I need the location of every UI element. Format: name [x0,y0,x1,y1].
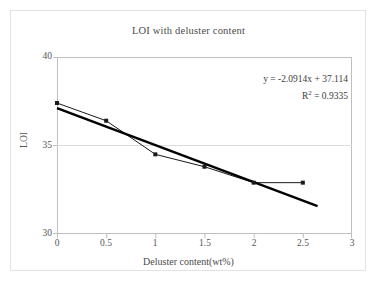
y-tick-40: 40 [22,51,52,61]
r-squared-value: R2 = 0.9335 [200,86,348,103]
r-squared-number: = 0.9335 [312,91,348,101]
x-tick-2-5: 2.5 [288,238,318,248]
x-tick-1-5: 1.5 [190,238,220,248]
x-axis-label: Deluster content(wt%) [0,256,377,267]
x-tick-1: 1 [140,238,170,248]
data-point-marker [104,119,108,123]
y-tick-30: 30 [22,228,52,238]
chart-title: LOI with deluster content [0,25,377,36]
trendline-equation: y = -2.0914x + 37.114 [200,72,348,86]
y-axis-label: LOI [19,110,29,170]
x-tick-0-5: 0.5 [91,238,121,248]
data-point-marker [203,165,207,169]
data-point-marker [153,152,157,156]
trendline-annotation: y = -2.0914x + 37.114 R2 = 0.9335 [200,72,348,103]
chart-figure: LOI with deluster content 40 35 30 LOI [0,0,377,286]
data-point-marker [55,101,59,105]
trendline [57,108,318,206]
data-series-line [57,103,303,183]
x-tick-0: 0 [42,238,72,248]
data-point-marker [301,181,305,185]
x-axis-ticks: 0 0.5 1 1.5 2 2.5 3 [0,238,377,254]
x-tick-3: 3 [337,238,367,248]
data-point-markers [55,101,305,185]
x-tick-2: 2 [239,238,269,248]
data-point-marker [252,181,256,185]
